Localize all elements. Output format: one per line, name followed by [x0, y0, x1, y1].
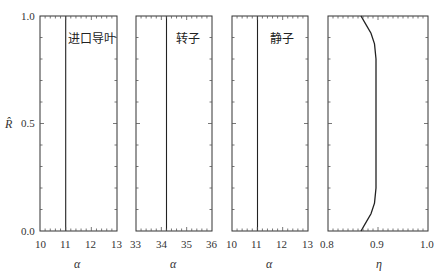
x-tick-label: 12: [85, 238, 96, 250]
x-axis-label: α: [74, 257, 81, 271]
panel-efficiency: 0.8 0.9 1.0 η: [320, 16, 434, 271]
y-axis-label: R̂: [4, 117, 13, 131]
tick-marks: [40, 16, 428, 231]
x-axis-label: α: [170, 257, 177, 271]
x-tick-label: 0.9: [370, 238, 384, 250]
y-tick-label: 1.0: [21, 10, 35, 22]
x-tick-label: 34: [156, 238, 168, 250]
y-tick-label: 0.0: [21, 225, 35, 237]
x-tick-label: 35: [181, 238, 193, 250]
x-axis-label: η: [376, 257, 382, 271]
panel-title: 进口导叶: [68, 32, 116, 46]
x-tick-label: 36: [206, 238, 218, 250]
x-tick-label: 11: [60, 238, 71, 250]
x-tick-label: 1.0: [420, 238, 434, 250]
x-tick-label: 10: [35, 238, 47, 250]
x-axis-label: α: [266, 257, 273, 271]
x-tick-label: 13: [111, 238, 123, 250]
x-tick-label: 12: [276, 238, 287, 250]
panel-title: 转子: [176, 31, 200, 46]
panel-stator: 静子 10 11 12 13 α: [226, 16, 314, 271]
x-tick-label: 0.8: [320, 238, 334, 250]
eta-curve: [361, 16, 376, 231]
x-tick-label: 11: [251, 238, 262, 250]
x-tick-label: 13: [302, 238, 314, 250]
x-tick-label: 33: [130, 238, 142, 250]
panel-inlet-guide-vane: 进口导叶 10 11 12 13 α: [35, 16, 123, 271]
x-tick-label: 10: [226, 238, 238, 250]
panel-title: 静子: [270, 32, 294, 46]
y-tick-label: 0.5: [21, 117, 35, 129]
panel-rotor: 转子 33 34 35 36 α: [130, 16, 218, 271]
chart-canvas: R̂ 1.0 0.5 0.0 进口导叶 10 11 12 13 α 转子 33 …: [0, 0, 443, 278]
